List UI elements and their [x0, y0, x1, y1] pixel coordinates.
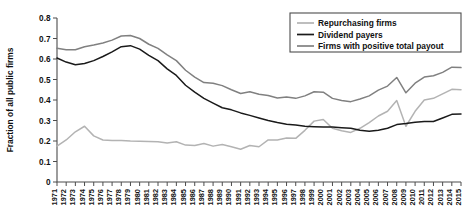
x-tick-label: 1993	[252, 189, 261, 205]
x-tick-label: 1986	[188, 189, 197, 205]
x-tick-label: 1982	[151, 189, 160, 205]
x-tick-label: 1985	[179, 189, 188, 205]
legend-label-2: Dividend payers	[318, 30, 383, 40]
x-tick-label: 2006	[371, 189, 380, 205]
y-tick-label: 0.5	[39, 76, 51, 85]
y-axis-label: Fraction of all public firms	[5, 47, 15, 152]
x-tick-label: 1989	[215, 189, 224, 205]
y-tick-label: 0.7	[39, 35, 51, 44]
x-tick-label: 1984	[169, 188, 178, 205]
x-tick-label: 1991	[234, 189, 243, 205]
x-tick-label: 1998	[298, 189, 307, 205]
x-tick-label: 2008	[390, 189, 399, 205]
legend-label-3: Firms with positive total payout	[318, 41, 444, 51]
y-tick-label: 0.8	[39, 14, 51, 23]
y-tick-label: 0.1	[39, 158, 51, 167]
y-tick-label: 0.6	[39, 55, 51, 64]
x-tick-label: 2009	[399, 189, 408, 205]
x-tick-label: 2011	[417, 189, 426, 205]
line-chart: 00.10.20.30.40.50.60.70.8Fraction of all…	[0, 0, 466, 219]
x-tick-label: 2002	[335, 189, 344, 205]
x-tick-label: 1992	[243, 189, 252, 205]
x-tick-label: 1987	[197, 189, 206, 205]
series-line-2	[57, 46, 461, 132]
x-tick-label: 1971	[50, 189, 59, 205]
x-tick-label: 1975	[87, 189, 96, 205]
y-tick-label: 0.2	[39, 137, 51, 146]
x-tick-label: 1980	[133, 189, 142, 205]
x-tick-label: 2003	[344, 189, 353, 205]
x-tick-label: 1983	[160, 189, 169, 205]
x-tick-label: 2012	[426, 189, 435, 205]
x-tick-label: 1988	[206, 189, 215, 205]
x-tick-label: 2010	[408, 189, 417, 205]
x-tick-label: 2015	[454, 189, 463, 205]
x-tick-label: 1972	[59, 189, 68, 205]
x-tick-label: 2000	[316, 189, 325, 205]
y-tick-label: 0	[46, 178, 51, 187]
series-line-1	[57, 89, 461, 149]
x-tick-label: 2005	[362, 189, 371, 205]
x-tick-label: 1978	[114, 189, 123, 205]
x-tick-label: 1995	[270, 189, 279, 205]
y-tick-label: 0.3	[39, 117, 51, 126]
x-tick-label: 1977	[105, 189, 114, 205]
x-tick-label: 1997	[289, 189, 298, 205]
legend-label-1: Repurchasing firms	[318, 18, 397, 28]
x-tick-label: 2014	[445, 188, 454, 205]
x-tick-label: 2007	[381, 189, 390, 205]
x-tick-label: 2004	[353, 188, 362, 205]
x-tick-label: 2013	[436, 189, 445, 205]
x-tick-label: 1994	[261, 188, 270, 205]
x-tick-label: 1996	[280, 189, 289, 205]
x-tick-label: 1973	[68, 189, 77, 205]
x-tick-label: 1981	[142, 189, 151, 205]
x-tick-label: 1974	[78, 188, 87, 205]
x-tick-label: 1979	[123, 189, 132, 205]
x-tick-label: 1999	[307, 189, 316, 205]
x-tick-label: 1990	[224, 189, 233, 205]
x-tick-label: 1976	[96, 189, 105, 205]
x-tick-label: 2001	[325, 189, 334, 205]
chart-figure: 00.10.20.30.40.50.60.70.8Fraction of all…	[0, 0, 466, 219]
y-tick-label: 0.4	[39, 96, 51, 105]
